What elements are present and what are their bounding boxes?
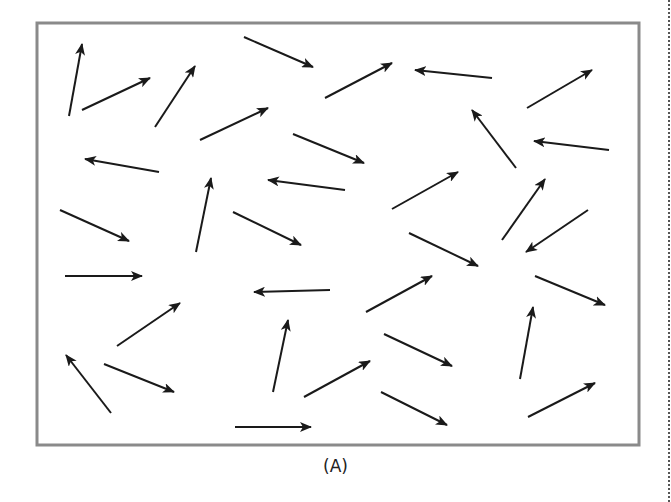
arrow-icon (268, 180, 345, 190)
arrow-icon (69, 44, 82, 116)
arrow-icon (381, 392, 447, 425)
arrow-icon (254, 290, 330, 292)
arrow-icon (304, 361, 370, 397)
arrow-icon (273, 320, 288, 392)
page-edge-dotted-divider (668, 0, 670, 502)
arrow-icon (528, 383, 595, 417)
arrow-icon (325, 63, 392, 98)
arrow-icon (409, 233, 478, 266)
arrow-icon (85, 159, 159, 172)
arrow-icon (233, 212, 301, 245)
arrow-icon (384, 334, 452, 366)
arrow-icon (117, 303, 180, 346)
figure-caption: (A) (0, 456, 671, 476)
arrow-icon (60, 210, 129, 241)
arrow-icon (104, 364, 174, 392)
arrow-icon (392, 172, 458, 209)
arrow-icon (534, 141, 609, 150)
arrow-icon (155, 66, 195, 127)
arrow-icon (526, 210, 588, 252)
arrow-icon (527, 70, 592, 108)
arrow-icon (502, 179, 545, 240)
arrow-icon (293, 134, 364, 163)
arrow-icon (535, 276, 605, 305)
arrow-icon (244, 37, 313, 67)
arrow-icon (82, 78, 150, 110)
arrow-icon (415, 70, 492, 78)
diagram-frame (37, 23, 639, 445)
arrow-icon (196, 178, 211, 252)
arrow-icon (520, 307, 533, 379)
arrow-icon (200, 108, 268, 140)
vector-field-diagram (0, 0, 671, 502)
arrow-group (60, 37, 609, 427)
arrow-icon (472, 110, 516, 168)
arrow-icon (366, 276, 432, 312)
